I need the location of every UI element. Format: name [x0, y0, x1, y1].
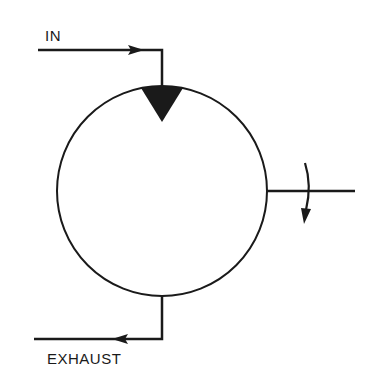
inlet-line	[38, 45, 162, 86]
exhaust-label: EXHAUST	[47, 350, 121, 367]
rotation-arrow-icon	[301, 163, 311, 224]
inlet-label: IN	[45, 27, 61, 44]
air-motor-diagram: IN EXHAUST	[0, 0, 373, 385]
exhaust-line	[34, 296, 162, 344]
inflow-triangle-icon	[141, 86, 183, 122]
